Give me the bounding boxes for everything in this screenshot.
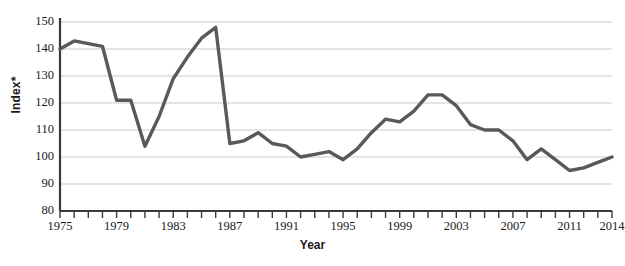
y-tick-label: 110 <box>24 122 54 137</box>
y-tick-label: 130 <box>24 68 54 83</box>
y-tick-label: 100 <box>24 149 54 164</box>
x-tick-label: 2007 <box>491 219 535 234</box>
y-tick-label: 80 <box>24 203 54 218</box>
x-tick-label: 1983 <box>151 219 195 234</box>
x-tick-label: 1979 <box>95 219 139 234</box>
x-tick-label: 1987 <box>208 219 252 234</box>
y-tick-label: 140 <box>24 41 54 56</box>
x-tick-label: 1975 <box>38 219 82 234</box>
x-tick-label: 1991 <box>264 219 308 234</box>
x-tick-label: 1999 <box>378 219 422 234</box>
x-tick-label: 2014 <box>590 219 625 234</box>
y-tick-label: 120 <box>24 95 54 110</box>
y-tick-label: 150 <box>24 14 54 29</box>
line-chart: Index* Year 1501401301201101009080 19751… <box>0 0 625 266</box>
y-tick-label: 90 <box>24 176 54 191</box>
x-tick-label: 1995 <box>321 219 365 234</box>
x-tick-label: 2003 <box>434 219 478 234</box>
x-tick-label: 2011 <box>548 219 592 234</box>
